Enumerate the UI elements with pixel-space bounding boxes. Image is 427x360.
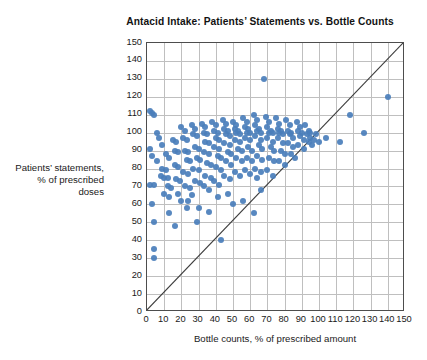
data-point [182,128,188,134]
data-point [227,176,233,182]
data-point [259,146,265,152]
y-tick-label: 100 [112,127,142,136]
y-axis-label: Patients’ statements, % of prescribed do… [10,162,104,198]
y-tick-label: 140 [112,55,142,64]
data-point [239,148,245,154]
data-point [249,148,255,154]
data-point [271,148,277,154]
data-point [385,94,391,100]
data-point [227,142,233,148]
x-axis-ticks: 0102030405060708090100110120130140150 [146,314,404,328]
data-point [206,187,212,193]
data-point [206,209,212,215]
y-tick-label: 110 [112,109,142,118]
data-point [282,162,288,168]
plot-area [146,42,404,311]
data-point [225,191,231,197]
y-tick-label: 20 [112,271,142,280]
data-point [282,151,288,157]
data-point [184,137,190,143]
data-point [216,182,222,188]
data-point [151,112,157,118]
scatter-chart: Antacid Intake: Patients’ Statements vs.… [0,0,427,360]
y-tick-label: 130 [112,73,142,82]
y-tick-label: 10 [112,289,142,298]
y-tick-label: 40 [112,235,142,244]
y-axis-ticks: 0102030405060708090100110120130140150 [108,42,142,311]
y-tick-label: 80 [112,163,142,172]
data-point [301,146,307,152]
data-point [184,205,190,211]
data-point [258,187,264,193]
data-point [261,76,267,82]
data-point [173,139,179,145]
data-point [196,167,202,173]
data-point [197,157,203,163]
data-point [254,175,260,181]
data-point [151,182,157,188]
data-point [237,173,243,179]
data-point [251,210,257,216]
y-tick-label: 50 [112,217,142,226]
data-point [316,139,322,145]
data-point [196,205,202,211]
y-tick-label: 70 [112,181,142,190]
data-point [165,175,171,181]
data-point [259,157,265,163]
y-tick-label: 120 [112,91,142,100]
data-point [175,191,181,197]
data-point [292,155,298,161]
data-point [337,139,343,145]
data-point [270,173,276,179]
data-point [258,130,264,136]
y-tick-label: 30 [112,253,142,262]
data-point [347,112,353,118]
chart-title: Antacid Intake: Patients’ Statements vs.… [100,16,420,27]
data-point [216,146,222,152]
x-tick-label: 150 [387,314,421,324]
data-point [361,130,367,136]
data-point [215,194,221,200]
data-point [258,169,264,175]
y-tick-label: 90 [112,145,142,154]
x-axis-label: Bottle counts, % of prescribed amount [146,333,404,344]
y-tick-label: 60 [112,199,142,208]
data-point [172,223,178,229]
y-tick-label: 150 [112,38,142,47]
data-point [323,135,329,141]
